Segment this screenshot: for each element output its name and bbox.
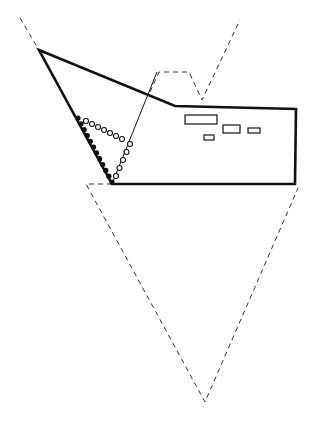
dashed-lower-triangle	[86, 184, 298, 402]
filled-dot	[94, 150, 99, 155]
filled-dot	[79, 121, 84, 126]
filled-dot	[103, 168, 108, 173]
filled-dot	[88, 139, 93, 144]
dashed-line-top-left	[20, 18, 39, 50]
open-circle	[120, 137, 125, 142]
filled-dot	[85, 133, 90, 138]
filled-dot	[75, 115, 80, 120]
open-circle	[90, 122, 95, 127]
filled-dot-row	[75, 115, 114, 184]
filled-dot	[97, 156, 102, 161]
open-circle	[84, 119, 89, 124]
filled-dot	[109, 179, 114, 184]
dashed-line-top-right	[150, 20, 240, 100]
window-rect	[248, 128, 260, 133]
open-circle	[117, 166, 122, 171]
open-circle	[121, 158, 126, 163]
window-rect	[204, 135, 214, 140]
diagram-canvas	[0, 0, 313, 427]
open-circle	[128, 142, 133, 147]
filled-dot	[91, 145, 96, 150]
open-circle	[114, 134, 119, 139]
open-circle	[114, 174, 119, 179]
filled-dot	[100, 162, 105, 167]
open-circle	[102, 128, 107, 133]
filled-dot	[106, 174, 111, 179]
dashed-construction-lines	[20, 18, 298, 402]
open-circle	[96, 125, 101, 130]
filled-dot	[82, 127, 87, 132]
window-rectangles	[185, 115, 260, 140]
window-rect	[223, 125, 240, 133]
window-rect	[185, 115, 217, 124]
open-circle	[108, 131, 113, 136]
open-circle	[124, 150, 129, 155]
